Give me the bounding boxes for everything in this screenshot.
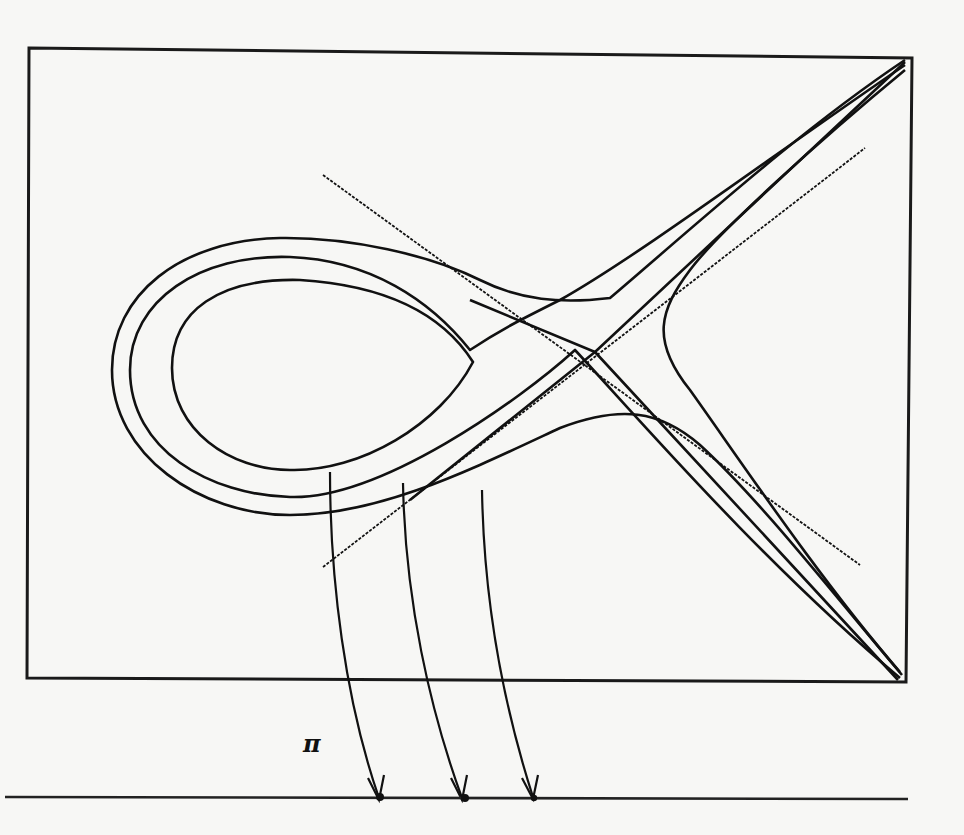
right-branch bbox=[664, 70, 905, 672]
base-point-3 bbox=[531, 795, 537, 801]
fiber-arrow-3 bbox=[482, 490, 533, 797]
outer-cubic-loop bbox=[112, 60, 905, 675]
middle-cubic bbox=[130, 65, 905, 678]
base-line bbox=[5, 797, 908, 799]
node-branch-b bbox=[470, 300, 898, 680]
projection-label: π bbox=[303, 729, 321, 758]
base-point-2 bbox=[461, 794, 469, 802]
figure-frame bbox=[27, 48, 912, 682]
cubic-curve-diagram bbox=[0, 0, 964, 835]
fiber-arrow-1 bbox=[330, 472, 379, 798]
fiber-arrow-2 bbox=[403, 483, 462, 798]
base-point-1 bbox=[376, 793, 384, 801]
